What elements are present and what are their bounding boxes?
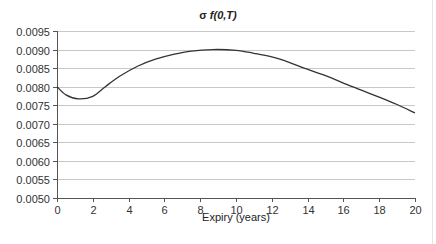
y-tick-label: 0.0085 [16, 63, 50, 75]
line-chart: 0.00950.00900.00850.00800.00750.00700.00… [0, 0, 436, 244]
y-tick-label: 0.0070 [16, 119, 50, 131]
y-tick-label: 0.0055 [16, 174, 50, 186]
x-axis-title: Expiry (years) [57, 211, 415, 223]
y-tick-label: 0.0050 [16, 193, 50, 205]
y-tick-label: 0.0060 [16, 156, 50, 168]
y-tick-label: 0.0080 [16, 82, 50, 94]
y-tick-label: 0.0065 [16, 137, 50, 149]
y-tick-label: 0.0075 [16, 100, 50, 112]
axes [57, 31, 415, 202]
y-axis-ticks: 0.00950.00900.00850.00800.00750.00700.00… [16, 26, 57, 205]
series-line [57, 50, 415, 113]
y-tick-label: 0.0090 [16, 45, 50, 57]
y-tick-label: 0.0095 [16, 26, 50, 38]
gridlines [57, 32, 415, 180]
